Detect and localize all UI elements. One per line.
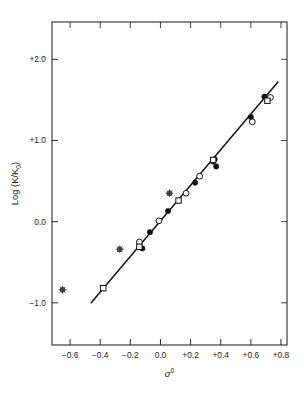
open-circle-marker-2 [183,190,189,196]
y-tick-label-0: −1.0 [29,298,46,308]
y-axis-title: Log (K/K0) [9,162,22,205]
x-axis-title: σ0 [165,367,175,379]
x-axis-ticks [70,22,281,345]
filled-circle-marker-6 [214,164,219,169]
plot-frame-border [52,22,287,345]
plot-frame [52,22,287,345]
y-axis-title-group: Log (K/K0) [9,162,22,205]
crossed-circle-marker-2 [166,189,174,197]
open-square-marker-0 [101,285,106,290]
open-circle-marker-4 [249,119,255,125]
open-square-marker-3 [210,157,215,162]
open-square-marker-4 [265,98,270,103]
chart-canvas: −0.6−0.4−0.20.0+0.2+0.4+0.6+0.8 −1.00.0+… [0,0,304,403]
x-tick-label-3: 0.0 [155,350,167,360]
crossed-circle-marker-0 [59,286,67,294]
x-axis-tick-labels: −0.6−0.4−0.20.0+0.2+0.4+0.6+0.8 [62,350,290,360]
filled-circle-marker-1 [147,230,152,235]
open-square-marker-2 [176,198,181,203]
filled-circle-marker-2 [165,208,170,213]
y-axis-tick-labels: −1.00.0+1.0+2.0 [29,54,46,307]
filled-circle-marker-3 [193,180,198,185]
crossed-circle-marker-1 [116,245,124,253]
open-circle-marker-1 [156,218,162,224]
x-tick-label-4: +0.2 [182,350,199,360]
scatter-chart-figure: −0.6−0.4−0.20.0+0.2+0.4+0.6+0.8 −1.00.0+… [0,0,304,403]
x-tick-label-0: −0.6 [62,350,79,360]
y-axis-ticks [52,59,287,302]
x-tick-label-1: −0.4 [92,350,109,360]
open-square-marker-1 [137,244,142,249]
x-axis-title-group: σ0 [165,367,175,379]
y-tick-label-3: +2.0 [29,54,46,64]
x-tick-label-6: +0.6 [243,350,260,360]
x-tick-label-5: +0.4 [212,350,229,360]
data-markers [59,94,274,294]
x-tick-label-2: −0.2 [122,350,139,360]
open-circle-marker-3 [197,173,203,179]
x-tick-label-7: +0.8 [273,350,290,360]
y-tick-label-2: +1.0 [29,135,46,145]
y-tick-label-1: 0.0 [34,217,46,227]
